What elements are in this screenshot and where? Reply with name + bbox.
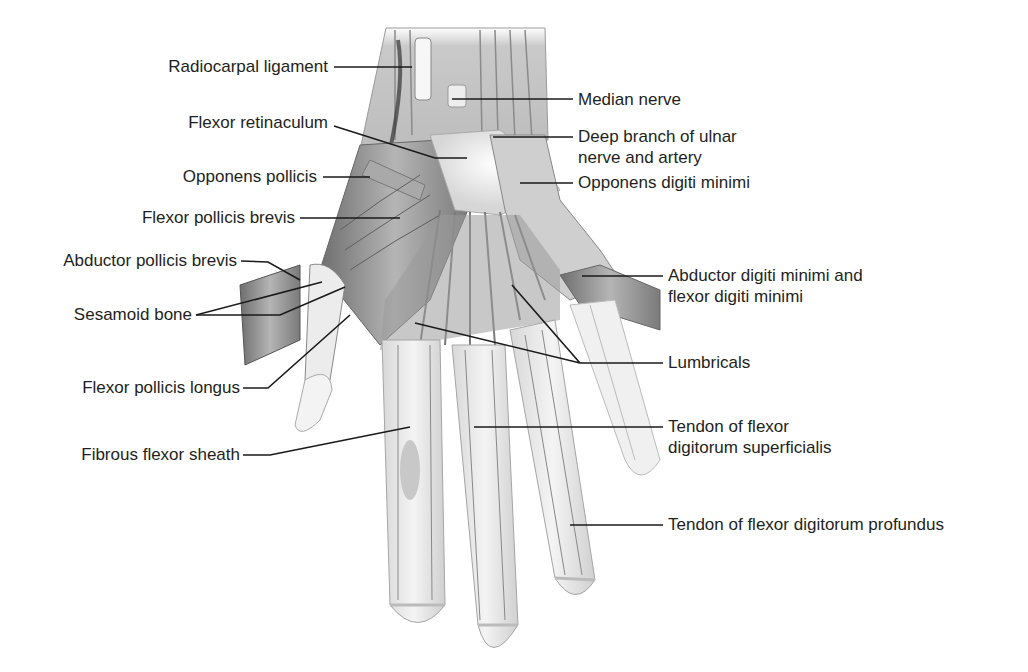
label-abductor-digiti-minimi: Abductor digiti minimi and flexor digiti… (668, 265, 863, 307)
label-opponens-digiti-minimi: Opponens digiti minimi (578, 172, 750, 193)
label-abductor-digiti-minimi-line1: Abductor digiti minimi and (668, 266, 863, 285)
label-opponens-pollicis: Opponens pollicis (183, 166, 317, 187)
forearm-tendons (360, 28, 548, 150)
label-abductor-pollicis-brevis: Abductor pollicis brevis (63, 250, 237, 271)
label-deep-branch-ulnar: Deep branch of ulnar nerve and artery (578, 126, 737, 168)
hand-anatomy-diagram: Radiocarpal ligament Flexor retinaculum … (0, 0, 1028, 672)
hand-illustration (0, 0, 1028, 672)
label-radiocarpal-ligament: Radiocarpal ligament (168, 56, 328, 77)
label-tendon-fdp: Tendon of flexor digitorum profundus (668, 514, 944, 535)
middle-finger (452, 345, 518, 648)
label-flexor-pollicis-brevis: Flexor pollicis brevis (142, 207, 295, 228)
label-tendon-fds-line1: Tendon of flexor (668, 417, 789, 436)
label-tendon-fds-line2: digitorum superficialis (668, 437, 831, 458)
label-lumbricals: Lumbricals (668, 352, 750, 373)
label-median-nerve: Median nerve (578, 89, 681, 110)
label-deep-branch-ulnar-line2: nerve and artery (578, 147, 737, 168)
label-sesamoid-bone: Sesamoid bone (74, 304, 192, 325)
label-abductor-digiti-minimi-line2: flexor digiti minimi (668, 286, 863, 307)
label-fibrous-flexor-sheath: Fibrous flexor sheath (81, 444, 240, 465)
index-finger (382, 340, 445, 623)
ring-finger (510, 320, 595, 595)
label-deep-branch-ulnar-line1: Deep branch of ulnar (578, 127, 737, 146)
label-flexor-retinaculum: Flexor retinaculum (188, 112, 328, 133)
label-flexor-pollicis-longus: Flexor pollicis longus (82, 377, 240, 398)
label-tendon-fds: Tendon of flexor digitorum superficialis (668, 416, 831, 458)
